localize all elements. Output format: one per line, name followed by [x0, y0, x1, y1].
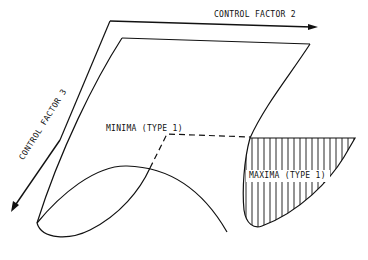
maxima-hatched-region	[243, 130, 355, 240]
surface-right-edge	[250, 44, 310, 138]
fold-curve	[37, 166, 227, 232]
cusp-surface-diagram: CONTROL FACTOR 2 CONTROL FACTOR 3 MINIMA…	[0, 0, 368, 260]
surface-drawing	[0, 0, 368, 260]
surface-back-edge	[60, 21, 110, 140]
axis-arrow-factor3	[11, 140, 60, 212]
axis-arrow-factor2	[110, 21, 318, 30]
maxima-label: MAXIMA (TYPE 1)	[249, 171, 326, 180]
lower-lobe-curve	[37, 168, 150, 237]
axis-label-factor2: CONTROL FACTOR 2	[214, 10, 296, 19]
surface-top-edge	[122, 38, 310, 44]
minima-label: MINIMA (TYPE 1)	[106, 124, 183, 133]
hidden-edge-dashed	[150, 134, 250, 168]
